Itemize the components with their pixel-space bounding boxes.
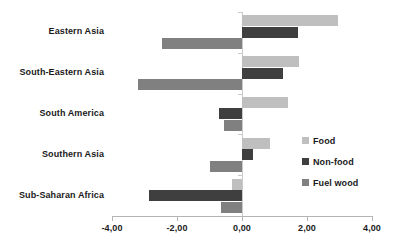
x-axis-tick-label: 0,00 <box>233 223 251 233</box>
x-axis-tick-labels: -4,00-2,000,002,004,00 <box>112 223 372 239</box>
category-tick <box>238 53 242 54</box>
category-label: South America <box>40 108 104 118</box>
legend-label: Food <box>313 136 335 146</box>
bar-nonfood <box>149 190 242 201</box>
category-tick <box>238 12 242 13</box>
category-label: Sub-Saharan Africa <box>19 190 104 200</box>
legend-swatch-icon <box>302 137 309 144</box>
legend-item[interactable]: Fuel wood <box>302 172 394 193</box>
bar-fuelwood <box>224 120 242 131</box>
category-label: South-Eastern Asia <box>20 67 104 77</box>
legend-item[interactable]: Non-food <box>302 151 394 172</box>
bar-nonfood <box>219 108 242 119</box>
x-axis-tick-label: 4,00 <box>363 223 381 233</box>
bar-group <box>112 94 372 135</box>
bar-fuelwood <box>138 79 242 90</box>
category-label: Eastern Asia <box>49 26 104 36</box>
x-axis-tick-label: -2,00 <box>166 223 187 233</box>
legend-swatch-icon <box>302 179 309 186</box>
bar-fuelwood <box>210 161 243 172</box>
bar-food <box>242 15 338 26</box>
bar-food <box>242 97 288 108</box>
bar-food <box>232 179 242 190</box>
x-axis-tick <box>307 216 308 221</box>
category-tick <box>238 134 242 135</box>
x-axis-tick <box>177 216 178 221</box>
bar-nonfood <box>242 68 283 79</box>
legend-item[interactable]: Food <box>302 130 394 151</box>
chart-legend: FoodNon-foodFuel wood <box>302 130 394 193</box>
x-axis-tick <box>112 216 113 221</box>
x-axis-line <box>112 216 372 217</box>
bar-food <box>242 56 299 67</box>
x-axis-tick-label: -4,00 <box>101 223 122 233</box>
x-axis-tick-label: 2,00 <box>298 223 316 233</box>
bar-food <box>242 138 270 149</box>
bar-chart: Eastern AsiaSouth-Eastern AsiaSouth Amer… <box>0 0 397 250</box>
category-axis-labels: Eastern AsiaSouth-Eastern AsiaSouth Amer… <box>0 12 108 216</box>
x-axis-tick <box>242 216 243 221</box>
legend-swatch-icon <box>302 158 309 165</box>
x-axis-tick <box>372 216 373 221</box>
legend-label: Fuel wood <box>313 178 358 188</box>
bar-group <box>112 53 372 94</box>
bar-nonfood <box>242 27 298 38</box>
bar-fuelwood <box>221 202 242 213</box>
category-label: Southern Asia <box>42 149 104 159</box>
legend-label: Non-food <box>313 157 354 167</box>
category-tick <box>238 94 242 95</box>
bar-group <box>112 12 372 53</box>
bar-fuelwood <box>162 38 242 49</box>
category-tick <box>238 175 242 176</box>
bar-nonfood <box>242 149 253 160</box>
